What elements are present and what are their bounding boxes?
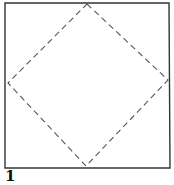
dashed-diamond-fold-lines [8, 4, 168, 166]
folding-diagram [0, 0, 174, 185]
figure-number-label: 1 [5, 168, 15, 184]
outer-square [5, 3, 170, 168]
